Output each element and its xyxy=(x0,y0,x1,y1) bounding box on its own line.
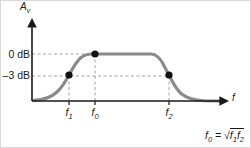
x-axis-label: f xyxy=(232,93,235,103)
y-axis-label: Av xyxy=(20,2,30,14)
marker-f2 xyxy=(165,71,172,78)
x-tick-label-f2: f2 xyxy=(157,107,181,121)
x-tick-label-f1: f1 xyxy=(57,107,81,121)
y-tick-label-minus3db: –3 dB xyxy=(1,70,30,81)
center-frequency-formula: f0 = √f1f2 xyxy=(205,129,244,144)
bandpass-response-figure: Av f 0 dB –3 dB f1 f0 f2 f0 = √f1f2 xyxy=(0,0,251,148)
radicand: f1f2 xyxy=(230,128,244,141)
plot-canvas xyxy=(1,1,251,148)
marker-f1 xyxy=(65,71,72,78)
x-tick-label-f0: f0 xyxy=(83,107,107,121)
marker-f0 xyxy=(91,50,98,57)
response-curve xyxy=(34,54,220,101)
y-tick-label-0db: 0 dB xyxy=(1,49,30,60)
